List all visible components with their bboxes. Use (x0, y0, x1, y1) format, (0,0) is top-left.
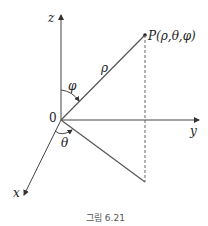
figure-caption: 그림 6.21 (86, 212, 125, 223)
phi-label: φ (68, 79, 77, 93)
z-axis-label: z (47, 11, 55, 25)
xy-projection-line (61, 120, 145, 182)
x-axis-label: x (13, 186, 20, 200)
y-axis-label: y (189, 124, 197, 138)
origin-label: 0 (49, 111, 57, 125)
point-label: P(ρ,θ,φ) (147, 29, 196, 43)
theta-arc (55, 130, 72, 134)
theta-label: θ (61, 136, 69, 150)
rho-label: ρ (100, 61, 108, 75)
radius-line (61, 35, 145, 120)
spherical-coordinates-diagram: z y x 0 P(ρ,θ,φ) ρ φ θ 그림 6.21 (0, 0, 208, 226)
